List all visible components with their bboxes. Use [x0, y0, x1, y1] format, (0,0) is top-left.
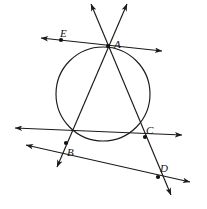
point-label-e: E — [60, 28, 67, 39]
point-label-b: B — [67, 147, 74, 158]
point-label-a: A — [114, 39, 121, 50]
secant-A-through-C-to-D — [91, 4, 171, 195]
diagram-canvas — [0, 0, 207, 209]
point-d — [156, 175, 160, 179]
geometry-diagram: ABCDE — [0, 0, 207, 209]
line-B-to-C — [15, 128, 182, 135]
point-label-c: C — [146, 125, 153, 136]
point-label-d: D — [160, 163, 168, 174]
point-b — [64, 141, 68, 145]
points-group — [59, 38, 160, 179]
point-a — [106, 44, 110, 48]
